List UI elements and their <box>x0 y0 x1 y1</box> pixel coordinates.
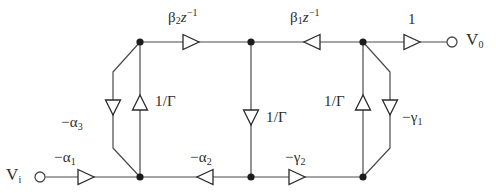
input-terminal-label-sub: i <box>18 174 21 185</box>
branch-label-beta2: β2z−1 <box>168 8 198 26</box>
input-terminal-circle <box>35 172 45 182</box>
arrow-gamma-left-up <box>133 95 148 110</box>
output-terminal-label-sub: 0 <box>478 39 483 50</box>
alpha3-sub: 3 <box>78 121 83 132</box>
arrow-gamma-right-up <box>356 95 371 110</box>
node-bottom-right <box>359 173 366 180</box>
arrow-gamma-center-down <box>244 110 259 125</box>
arrow-gamma2-right <box>289 170 305 185</box>
alpha1-sub: 1 <box>71 156 76 167</box>
alpha2-base: −α <box>190 149 207 165</box>
beta1-base: β <box>290 9 298 25</box>
alpha1-base: −α <box>54 149 71 165</box>
branch-label-unity: 1 <box>408 12 416 27</box>
input-terminal-label: Vi <box>6 166 21 185</box>
arrow-alpha3-down <box>106 100 121 115</box>
beta1-sup: −1 <box>309 7 320 18</box>
gamma2-sub: 2 <box>301 156 306 167</box>
branch-label-gamma2: −γ2 <box>285 150 306 167</box>
arrow-beta2-right <box>183 35 199 50</box>
arrow-unity-right <box>404 35 420 50</box>
node-top-left <box>136 38 143 45</box>
node-top-right <box>359 38 366 45</box>
arrow-beta1-left <box>304 35 320 50</box>
arrow-alpha1-right <box>78 170 94 185</box>
node-bottom-center <box>247 173 254 180</box>
branch-label-gamma-center: 1/Γ <box>266 110 287 125</box>
node-top-center <box>247 38 254 45</box>
branch-label-beta1: β1z−1 <box>290 8 320 26</box>
alpha2-sub: 2 <box>207 156 212 167</box>
gamma1-base: −γ <box>402 109 418 125</box>
alpha3-base: −α <box>61 114 78 130</box>
output-terminal-label: V0 <box>466 31 483 50</box>
branch-label-alpha2: −α2 <box>190 150 212 167</box>
beta2-sup: −1 <box>187 7 198 18</box>
gamma1-sub: 1 <box>418 116 423 127</box>
branch-label-gamma-left: 1/Γ <box>155 94 176 109</box>
node-bottom-left <box>136 173 143 180</box>
branch-label-gamma-right: 1/Γ <box>324 94 345 109</box>
signal-flow-graph-diagram: Vi V0 β2z−1 β1z−1 1 1/Γ 1/Γ 1/Γ −α3 −γ1 … <box>0 0 496 193</box>
gamma2-base: −γ <box>285 149 301 165</box>
arrow-alpha2-left <box>197 170 213 185</box>
beta2-base: β <box>168 9 176 25</box>
branch-label-gamma1: −γ1 <box>402 110 423 127</box>
output-terminal-circle <box>447 37 457 47</box>
arrow-gamma1-down <box>383 100 398 115</box>
branch-label-alpha1: −α1 <box>54 150 76 167</box>
branch-label-alpha3: −α3 <box>61 115 83 132</box>
